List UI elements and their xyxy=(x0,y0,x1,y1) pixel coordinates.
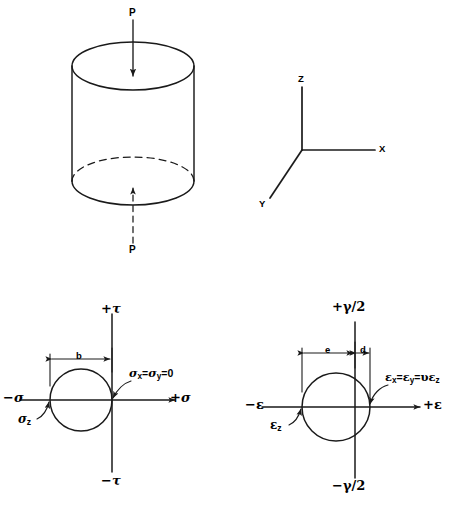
stress-axis-right-label: +σ xyxy=(170,391,190,404)
stress-leader-sigma-z xyxy=(37,402,49,419)
strain-point-left-label: εz xyxy=(270,419,282,433)
sigma-equals-zero: =0 xyxy=(161,367,173,379)
strain-point-right-label: εx=εy=υεz xyxy=(385,372,440,385)
epsilon-x-glyph: ε xyxy=(385,370,392,384)
stress-axis-left-label: −σ xyxy=(3,391,23,404)
strain-dimension-label-d: d xyxy=(360,345,366,355)
figure-canvas xyxy=(0,0,467,516)
sigma-y-glyph: σ xyxy=(148,366,156,380)
axis-label-x: X xyxy=(379,144,385,154)
strain-axis-right-label: +ε xyxy=(423,398,442,411)
strain-axis-top-label: +γ/2 xyxy=(332,300,365,313)
stress-dimension-label-b: b xyxy=(76,351,82,361)
axes3d-lines xyxy=(270,87,375,198)
epsilon-subscript: z xyxy=(277,423,281,433)
stress-point-left-label: σz xyxy=(18,413,31,427)
strain-dimension-label-e: e xyxy=(325,345,330,355)
stress-axis-top-label: +τ xyxy=(101,302,121,315)
stress-sigma-glyph: σ xyxy=(18,412,27,426)
stress-leader-sigma-xy xyxy=(113,381,131,398)
strain-axis-bottom-label: −γ/2 xyxy=(332,479,365,492)
epsilon-y-glyph: ε xyxy=(403,370,410,384)
axis-label-y: Y xyxy=(259,199,265,209)
strain-leader-epsilon-z xyxy=(289,409,301,425)
strain-diagram xyxy=(262,322,420,478)
cylinder-bottom-hidden-arc xyxy=(72,157,194,181)
stress-diagram xyxy=(20,314,175,472)
axis-y-line xyxy=(270,150,302,198)
epsilon-z-subscript: z xyxy=(435,376,439,385)
axis-label-z: Z xyxy=(298,74,304,84)
strain-axis-left-label: −ε xyxy=(245,398,264,411)
load-label-bottom: P xyxy=(129,245,136,255)
load-label-top: P xyxy=(129,8,136,18)
stress-point-right-label: σx=σy=0 xyxy=(129,368,173,381)
stress-axis-bottom-label: −τ xyxy=(101,474,121,487)
strain-leader-epsilon-xy xyxy=(370,385,388,404)
stress-sigma-subscript: z xyxy=(27,417,31,427)
